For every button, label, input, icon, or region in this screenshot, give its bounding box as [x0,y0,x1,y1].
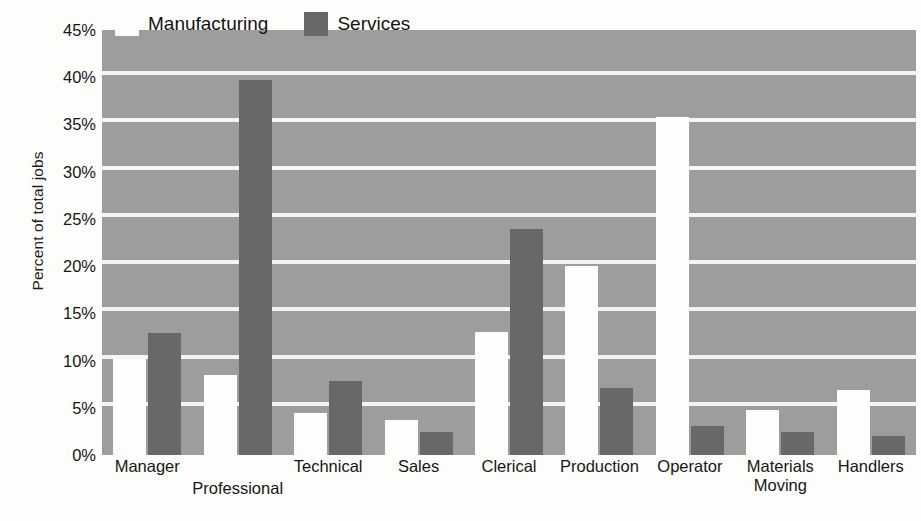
bar-chart: Percent of total jobs 0%5%10%15%20%25%30… [0,0,921,521]
chart-legend: ManufacturingServices [115,12,410,36]
bar-manufacturing-manager [113,359,146,455]
bar-services-clerical [510,229,543,455]
y-axis-title: Percent of total jobs [29,91,47,351]
bar-services-manager [148,333,181,455]
legend-label: Manufacturing [148,13,268,35]
y-axis-tick-label: 30% [50,162,96,181]
y-axis-tick-label: 0% [50,446,96,465]
x-axis-tick-label: Clerical [481,457,536,476]
x-axis-tick-label: Professional [192,479,283,498]
bar-services-handlers [872,436,905,455]
bar-services-professional [239,80,272,455]
bar-manufacturing-technical [294,413,327,456]
bar-manufacturing-operator [656,117,689,455]
y-axis-tick-label: 25% [50,209,96,228]
bar-manufacturing-professional [204,375,237,455]
bar-manufacturing-handlers [837,390,870,455]
legend-label: Services [337,13,410,35]
y-axis-tick-label: 15% [50,304,96,323]
bar-manufacturing-sales [385,420,418,455]
x-axis-tick-label: Handlers [838,457,904,476]
y-axis-tick-labels: 0%5%10%15%20%25%30%35%40%45% [50,30,96,455]
x-axis-tick-label: Technical [294,457,363,476]
x-axis-tick-label: Operator [657,457,722,476]
y-axis-tick-label: 35% [50,115,96,134]
x-axis-tick-label: Production [560,457,639,476]
y-axis-tick-label: 20% [50,257,96,276]
x-axis-tick-label: Manager [115,457,180,476]
bars-layer [102,30,916,455]
x-axis-tick-label: Materials Moving [747,457,814,495]
y-axis-tick-label: 45% [50,21,96,40]
legend-swatch-services [304,12,328,36]
bar-services-materials-moving [781,432,814,455]
y-axis-tick-label: 40% [50,68,96,87]
bar-manufacturing-clerical [475,332,508,455]
bar-services-production [600,388,633,455]
plot-area [102,30,916,455]
bar-manufacturing-materials-moving [746,410,779,455]
y-axis-tick-label: 10% [50,351,96,370]
legend-entry-services: Services [304,12,410,36]
bar-services-operator [691,426,724,455]
legend-entry-manufacturing: Manufacturing [115,12,268,36]
y-axis-tick-label: 5% [50,398,96,417]
x-axis-tick-label: Sales [398,457,439,476]
x-axis-tick-labels: ManagerProfessionalTechnicalSalesClerica… [102,457,916,519]
bar-services-technical [329,381,362,455]
bar-manufacturing-production [565,266,598,455]
legend-swatch-manufacturing [115,12,139,36]
bar-services-sales [420,432,453,455]
